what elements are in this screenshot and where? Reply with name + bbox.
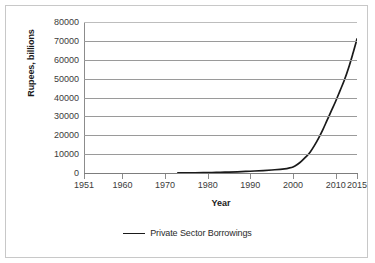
y-tick-label: 40000 [33, 93, 79, 103]
y-tick-label: 10000 [33, 149, 79, 159]
x-axis-tick-labels: 19511960197019801990200020102015 [84, 180, 358, 194]
y-tick-label: 80000 [33, 17, 79, 27]
legend-line-icon [123, 233, 145, 234]
gridline [84, 154, 357, 155]
plot-area [84, 22, 357, 173]
x-axis-title: Year [84, 198, 358, 208]
gridline [84, 116, 357, 117]
x-tick-label: 2015 [337, 180, 375, 190]
x-tick [336, 174, 337, 179]
x-tick [357, 174, 358, 179]
y-tick-label: 20000 [33, 130, 79, 140]
y-tick-label: 0 [33, 168, 79, 178]
y-axis-tick-labels: 8000070000600005000040000300002000010000… [31, 6, 79, 259]
x-tick [165, 174, 166, 179]
x-tick-label: 1990 [230, 180, 270, 190]
chart-legend: Private Sector Borrowings [6, 228, 369, 238]
legend-item-label: Private Sector Borrowings [150, 228, 252, 238]
gridline [84, 79, 357, 80]
gridline [84, 98, 357, 99]
gridline [84, 60, 357, 61]
x-tick-label: 1951 [64, 180, 104, 190]
gridline [84, 22, 357, 23]
y-tick-label: 30000 [33, 111, 79, 121]
gridline [84, 41, 357, 42]
x-axis-ticks [84, 174, 358, 179]
x-tick-label: 1960 [102, 180, 142, 190]
x-tick [293, 174, 294, 179]
chart-figure: Rupees, billions 80000700006000050000400… [5, 5, 368, 258]
x-tick [250, 174, 251, 179]
y-tick-label: 70000 [33, 36, 79, 46]
y-tick-label: 60000 [33, 55, 79, 65]
x-tick-label: 2000 [273, 180, 313, 190]
x-tick-label: 1980 [188, 180, 228, 190]
x-tick [122, 174, 123, 179]
y-tick-label: 50000 [33, 74, 79, 84]
gridline [84, 135, 357, 136]
x-tick [84, 174, 85, 179]
x-tick-label: 1970 [145, 180, 185, 190]
x-tick [208, 174, 209, 179]
